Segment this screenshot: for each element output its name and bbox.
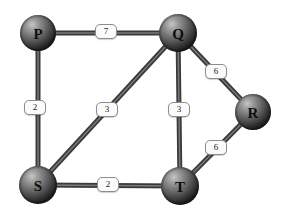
node-s[interactable]: S <box>19 166 57 204</box>
node-q[interactable]: Q <box>159 14 197 52</box>
node-p-label: P <box>33 26 42 42</box>
edge-weight-q-s: 3 <box>96 102 118 117</box>
edge-weight-q-r: 6 <box>205 64 227 79</box>
edge-weight-s-t: 2 <box>97 177 119 192</box>
edge-group <box>38 33 253 186</box>
node-s-label: S <box>34 178 42 194</box>
edge-weight-p-s: 2 <box>24 100 46 115</box>
edge-weight-r-t: 6 <box>205 140 227 155</box>
node-q-label: Q <box>172 26 184 42</box>
node-t[interactable]: T <box>161 167 199 205</box>
node-p[interactable]: P <box>20 15 56 51</box>
edge-weight-q-t: 3 <box>168 102 190 117</box>
node-r-label: R <box>248 105 259 121</box>
graph-canvas: P Q R S T 7 <box>0 0 287 215</box>
node-group: P Q R S T <box>19 14 271 205</box>
node-r[interactable]: R <box>235 94 271 130</box>
node-t-label: T <box>175 179 185 195</box>
edge-weight-p-q: 7 <box>95 24 117 39</box>
